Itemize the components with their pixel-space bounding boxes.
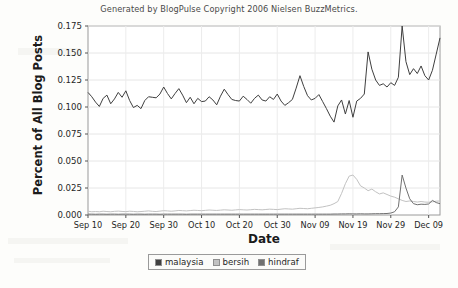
plot-frame xyxy=(88,26,440,215)
y-tick-label: 0.075 xyxy=(57,129,82,139)
x-tick-label: Sep 20 xyxy=(112,220,140,230)
legend-item-malaysia[interactable]: malaysia xyxy=(155,257,204,267)
y-tick-label: 0.000 xyxy=(57,210,82,220)
y-tick-label: 0.150 xyxy=(57,48,82,58)
x-axis-title: Date xyxy=(88,232,440,246)
x-tick-label: Sep 30 xyxy=(149,220,177,230)
x-tick-label: Oct 20 xyxy=(226,220,253,230)
legend-swatch-icon xyxy=(213,259,220,266)
x-tick-label: Oct 30 xyxy=(264,220,291,230)
y-tick-label: 0.050 xyxy=(57,156,82,166)
legend-label: bersih xyxy=(223,257,250,267)
y-tick-label: 0.125 xyxy=(57,75,82,85)
x-axis-ticks: Sep 10Sep 20Sep 30Oct 10Oct 20Oct 30Nov … xyxy=(74,215,443,230)
y-tick-label: 0.175 xyxy=(57,21,82,31)
legend-item-hindraf[interactable]: hindraf xyxy=(258,257,299,267)
x-tick-label: Dec 09 xyxy=(414,220,443,230)
x-tick-label: Nov 09 xyxy=(301,220,330,230)
legend-label: hindraf xyxy=(268,257,299,267)
x-tick-label: Sep 10 xyxy=(74,220,102,230)
legend-item-bersih[interactable]: bersih xyxy=(213,257,250,267)
legend-label: malaysia xyxy=(165,257,204,267)
legend-swatch-icon xyxy=(155,259,162,266)
y-tick-label: 0.025 xyxy=(57,183,82,193)
x-tick-label: Nov 19 xyxy=(338,220,367,230)
blogpulse-chart: Generated by BlogPulse Copyright 2006 Ni… xyxy=(0,0,458,288)
x-tick-label: Oct 10 xyxy=(188,220,215,230)
chart-legend: malaysiabersihhindraf xyxy=(148,254,306,270)
x-tick-label: Nov 29 xyxy=(376,220,405,230)
legend-swatch-icon xyxy=(258,259,265,266)
y-axis-ticks: 0.0000.0250.0500.0750.1000.1250.1500.175 xyxy=(57,21,88,220)
y-tick-label: 0.100 xyxy=(57,102,82,112)
